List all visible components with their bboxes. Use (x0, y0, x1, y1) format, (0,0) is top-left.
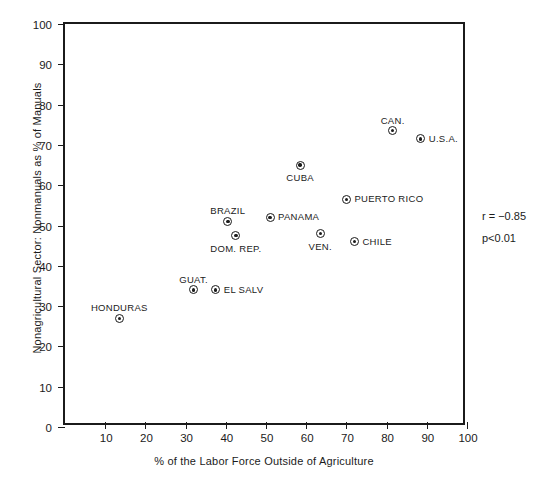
x-axis-tick: 10 (105, 422, 106, 429)
x-axis-title: % of the Labor Force Outside of Agricult… (63, 455, 465, 467)
correlation-value: r = −0.85 (482, 205, 526, 227)
y-axis-tick: 20 (58, 346, 65, 347)
x-axis-tick-label: 80 (376, 431, 400, 445)
data-point-label: HONDURAS (91, 302, 148, 313)
y-axis-tick: 100 (58, 24, 65, 25)
y-axis-tick: 0 (58, 427, 65, 428)
x-axis-tick: 70 (346, 422, 347, 429)
data-point (316, 229, 325, 238)
data-point-label: DOM. REP. (210, 243, 261, 254)
data-point-label: VEN. (309, 241, 332, 252)
x-axis-tick: 80 (387, 422, 388, 429)
y-axis-tick: 30 (58, 306, 65, 307)
x-axis-tick: 40 (226, 422, 227, 429)
x-axis-tick-label: 10 (94, 431, 118, 445)
data-point (416, 134, 425, 143)
data-point (296, 161, 305, 170)
y-axis-tick: 90 (58, 64, 65, 65)
data-point-label: GUAT. (179, 274, 208, 285)
x-axis-tick-label: 100 (456, 431, 480, 445)
x-axis-tick: 60 (306, 422, 307, 429)
y-axis-tick: 40 (58, 266, 65, 267)
y-axis-tick-label: 0 (46, 420, 52, 436)
scatter-plot-figure: 0102030405060708090100102030405060708090… (0, 0, 556, 499)
data-point (223, 217, 232, 226)
data-point (189, 285, 198, 294)
data-point-label: EL SALV (224, 284, 264, 295)
y-axis-tick: 50 (58, 226, 65, 227)
y-axis-tick: 80 (58, 105, 65, 106)
significance-value: p<0.01 (482, 227, 526, 249)
y-axis-tick: 60 (58, 185, 65, 186)
x-axis-tick-label: 50 (255, 431, 279, 445)
x-axis-tick-label: 20 (134, 431, 158, 445)
data-point (211, 285, 220, 294)
x-axis-tick: 20 (145, 422, 146, 429)
data-point-label: PUERTO RICO (354, 193, 423, 204)
x-axis-tick-label: 40 (215, 431, 239, 445)
data-point (388, 126, 397, 135)
data-point (115, 314, 124, 323)
data-point-label: PANAMA (278, 211, 319, 222)
data-point (231, 231, 240, 240)
data-point (350, 237, 359, 246)
y-axis-tick: 10 (58, 387, 65, 388)
figure-caption (72, 486, 542, 498)
x-axis-tick: 90 (427, 422, 428, 429)
data-point-label: CUBA (286, 172, 314, 183)
data-point-label: BRAZIL (210, 205, 245, 216)
plot-area: 0102030405060708090100102030405060708090… (63, 22, 465, 425)
x-axis-tick-label: 60 (295, 431, 319, 445)
x-axis-tick: 50 (266, 422, 267, 429)
x-axis-tick: 100 (467, 422, 468, 429)
data-point (342, 195, 351, 204)
data-point-label: U.S.A. (429, 133, 458, 144)
y-axis-tick: 70 (58, 145, 65, 146)
y-axis-title: Nonagricultural Sector: Nonmanuals as % … (31, 18, 43, 418)
data-point-label: CAN. (381, 115, 405, 126)
x-axis-tick-label: 30 (175, 431, 199, 445)
stats-annotation: r = −0.85 p<0.01 (482, 205, 526, 249)
x-axis-tick-label: 90 (416, 431, 440, 445)
data-point (266, 213, 275, 222)
x-axis-tick: 30 (186, 422, 187, 429)
x-axis-tick-label: 70 (335, 431, 359, 445)
data-point-label: CHILE (362, 236, 391, 247)
